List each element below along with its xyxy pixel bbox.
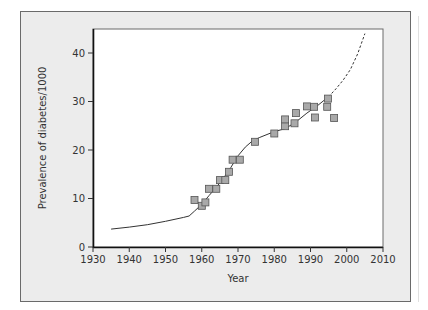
y-axis-ticks: 010203040 xyxy=(72,48,93,253)
y-tick-label: 10 xyxy=(72,193,85,204)
data-point-square xyxy=(191,197,198,204)
prevalence-chart: 193019401950196019701980199020002010 010… xyxy=(0,0,428,310)
data-point-square xyxy=(291,120,298,127)
data-point-square xyxy=(303,103,310,110)
data-point-square xyxy=(229,156,236,163)
data-point-square xyxy=(271,130,278,137)
y-tick-label: 20 xyxy=(72,145,85,156)
data-point-square xyxy=(311,114,318,121)
data-point-square xyxy=(293,110,300,117)
y-tick-label: 0 xyxy=(79,242,85,253)
x-tick-label: 1990 xyxy=(298,254,323,265)
x-tick-label: 1970 xyxy=(225,254,250,265)
data-point-square xyxy=(324,95,331,102)
y-tick-label: 40 xyxy=(72,48,85,59)
x-tick-label: 2000 xyxy=(334,254,359,265)
plot-area xyxy=(93,29,383,247)
x-tick-label: 1960 xyxy=(189,254,214,265)
data-point-square xyxy=(252,138,259,145)
data-point-square xyxy=(282,116,289,123)
x-axis-label: Year xyxy=(226,273,249,284)
data-point-square xyxy=(331,115,338,122)
data-point-square xyxy=(311,103,318,110)
y-tick-label: 30 xyxy=(72,96,85,107)
data-point-square xyxy=(222,177,229,184)
data-point-square xyxy=(202,199,209,206)
data-point-square xyxy=(206,185,213,192)
x-tick-label: 1980 xyxy=(262,254,287,265)
x-tick-label: 1940 xyxy=(117,254,142,265)
x-axis-ticks: 193019401950196019701980199020002010 xyxy=(80,247,395,265)
data-point-square xyxy=(225,168,232,175)
data-point-square xyxy=(236,156,243,163)
x-tick-label: 1950 xyxy=(153,254,178,265)
data-point-square xyxy=(213,185,220,192)
y-axis-label: Prevalence of diabetes/1000 xyxy=(37,67,48,210)
x-tick-label: 2010 xyxy=(370,254,395,265)
x-tick-label: 1930 xyxy=(80,254,105,265)
data-point-square xyxy=(324,103,331,110)
data-point-square xyxy=(282,123,289,130)
